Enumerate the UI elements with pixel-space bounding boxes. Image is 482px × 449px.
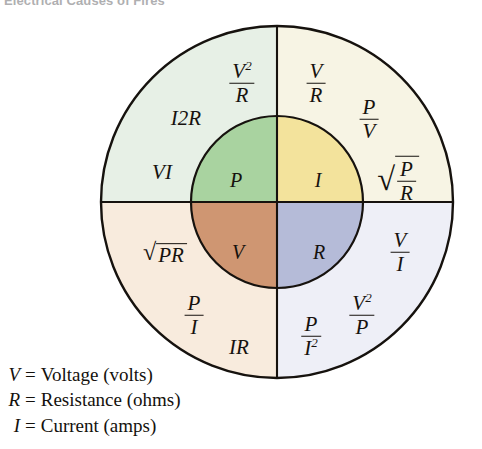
legend-text: Current (amps) <box>41 415 157 436</box>
legend-symbol: V <box>5 362 20 387</box>
formula-i-times-r: IR <box>229 337 249 358</box>
inner-label-resistance: R <box>313 242 325 262</box>
legend-row-current: I=Current (amps) <box>5 413 181 438</box>
formula-i-squared-r: I2R <box>171 108 201 129</box>
legend-row-resistance: R=Resistance (ohms) <box>5 387 181 412</box>
legend-text: Resistance (ohms) <box>41 389 181 410</box>
legend-row-voltage: V=Voltage (volts) <box>5 362 181 387</box>
legend-text: Voltage (volts) <box>41 364 153 385</box>
legend: V=Voltage (volts) R=Resistance (ohms) I=… <box>5 362 181 438</box>
formula-sqrt-pr: √PR <box>143 242 187 266</box>
formula-p-over-i: P I <box>185 292 204 339</box>
formula-v-squared-over-r: V2 R <box>229 60 254 107</box>
formula-v-times-i: VI <box>152 162 172 183</box>
formula-p-over-v: P V <box>360 96 379 143</box>
legend-equals: = <box>20 389 41 410</box>
legend-symbol: R <box>5 387 20 412</box>
inner-label-voltage: V <box>232 242 244 262</box>
formula-v-over-r: V R <box>307 60 326 107</box>
formula-p-over-i-squared: P I2 <box>301 313 321 360</box>
inner-label-current: I <box>315 170 322 190</box>
inner-label-power: P <box>230 170 242 190</box>
legend-equals: = <box>20 364 41 385</box>
legend-symbol: I <box>5 413 20 438</box>
formula-sqrt-p-over-r: √ P R <box>377 156 419 205</box>
formula-v-over-i: V I <box>391 229 410 276</box>
page-root: Electrical Causes of Fires P I V R V2 R … <box>0 0 482 449</box>
legend-equals: = <box>20 415 41 436</box>
formula-v-squared-over-p: V2 P <box>349 292 374 339</box>
